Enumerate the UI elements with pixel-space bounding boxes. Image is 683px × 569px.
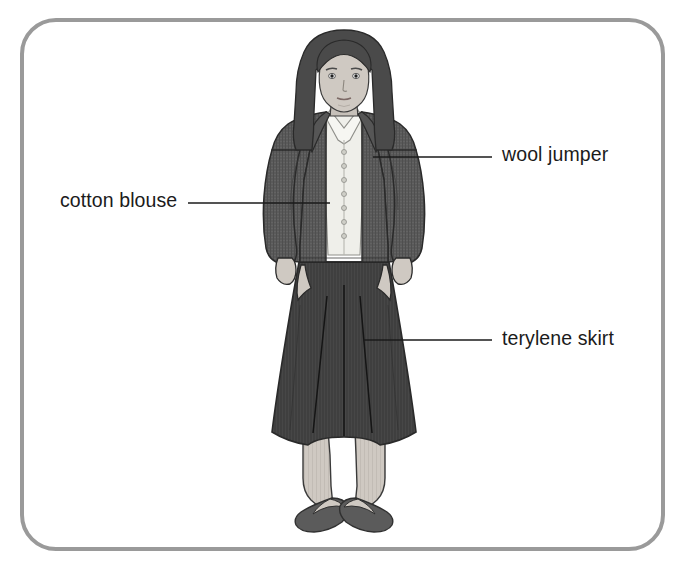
cotton-blouse-shape <box>326 110 362 255</box>
label-wool-jumper: wool jumper <box>502 145 608 165</box>
shoes-group <box>295 498 393 532</box>
label-cotton-blouse: cotton blouse <box>60 191 177 211</box>
face <box>317 40 371 112</box>
terylene-skirt-shape <box>272 262 416 445</box>
diagram-page: wool jumper cotton blouse terylene skirt <box>0 0 683 569</box>
woman-figure-illustration <box>0 0 683 569</box>
label-terylene-skirt: terylene skirt <box>502 329 614 349</box>
